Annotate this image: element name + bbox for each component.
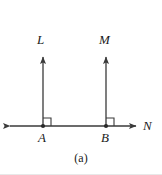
point-label-a: A [38, 131, 46, 144]
figure-caption: (a) [0, 152, 162, 164]
point-marker-b [104, 124, 108, 128]
line-label-n: N [143, 119, 152, 132]
figure-canvas [0, 0, 162, 175]
ray-label-l: L [37, 33, 44, 46]
point-marker-a [41, 124, 45, 128]
geometry-figure: L M N A B (a) [0, 0, 162, 175]
ray-label-m: M [99, 33, 110, 46]
point-label-b: B [101, 131, 109, 144]
bottom-divider [0, 174, 162, 175]
